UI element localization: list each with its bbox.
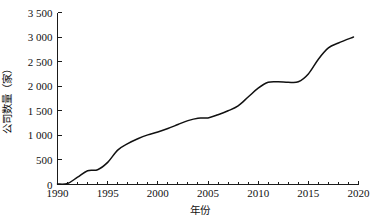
- y-axis-title: 公司数量（家）: [1, 64, 13, 134]
- y-tick-label: 1 000: [28, 129, 53, 141]
- x-tick-label: 2020: [348, 187, 370, 199]
- series-line-company-count: [58, 37, 354, 184]
- y-tick-label: 2 000: [28, 80, 53, 92]
- x-axis-title: 年份: [190, 204, 211, 216]
- y-tick-label: 2 500: [28, 56, 53, 68]
- y-tick-label: 1 500: [28, 105, 53, 117]
- data-series-group: [58, 37, 354, 184]
- x-tick-label: 2010: [247, 187, 270, 199]
- x-tick-label: 1990: [47, 187, 70, 199]
- x-tick-label: 2015: [297, 187, 320, 199]
- chart-axes: 05001 0001 5002 0002 5003 0003 500 19901…: [28, 7, 370, 199]
- x-tick-label: 1995: [97, 187, 120, 199]
- chart-figure: 05001 0001 5002 0002 5003 0003 500 19901…: [0, 0, 370, 220]
- line-chart: 05001 0001 5002 0002 5003 0003 500 19901…: [0, 0, 370, 220]
- y-axis-ticks: 05001 0001 5002 0002 5003 0003 500: [28, 7, 62, 191]
- y-tick-label: 500: [36, 154, 53, 166]
- y-tick-label: 3 000: [28, 31, 53, 43]
- y-tick-label: 3 500: [28, 7, 53, 19]
- x-tick-label: 2000: [147, 187, 170, 199]
- x-tick-label: 2005: [197, 187, 220, 199]
- x-axis-ticks: 1990199520002005201020152020: [47, 181, 370, 199]
